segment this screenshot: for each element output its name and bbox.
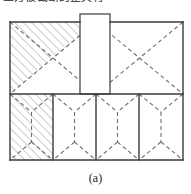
figure-caption: (a) <box>0 168 191 186</box>
bottom-cell-1 <box>10 94 53 160</box>
structural-diagram <box>0 0 191 194</box>
central-protrusion <box>80 14 110 94</box>
protrusion-body <box>80 14 110 94</box>
figure-container: 上方被截断的正文行 <box>0 0 191 194</box>
caption-label: (a) <box>89 171 102 185</box>
